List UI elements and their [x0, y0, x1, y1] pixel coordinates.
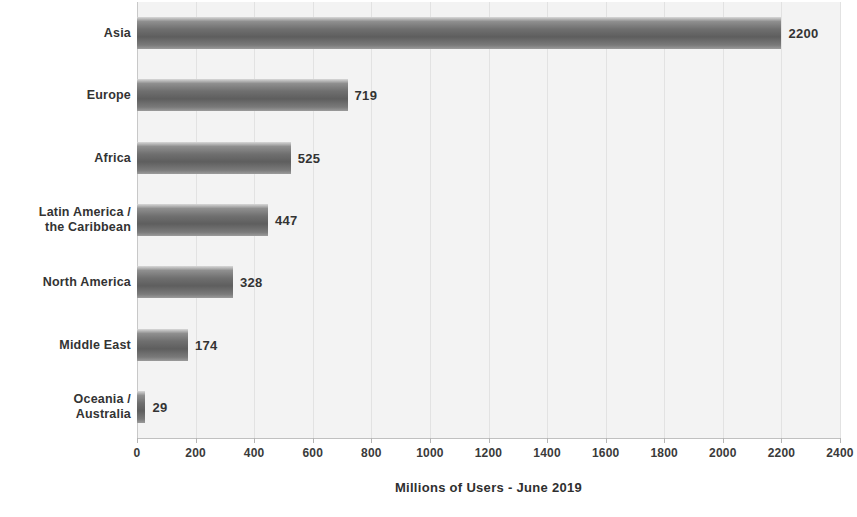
- x-axis-tick: [840, 438, 841, 443]
- x-axis-tick-label: 1000: [416, 446, 444, 460]
- x-axis-tick: [196, 438, 197, 443]
- x-axis-tick-label: 1400: [533, 446, 561, 460]
- x-axis-tick: [137, 438, 138, 443]
- category-label: Asia: [0, 26, 131, 41]
- x-axis-tick: [547, 438, 548, 443]
- x-axis-tick-label: 600: [302, 446, 323, 460]
- gridline: [840, 2, 841, 438]
- category-axis-labels: AsiaEuropeAfricaLatin America /the Carib…: [0, 2, 131, 438]
- bar[interactable]: [137, 329, 188, 361]
- x-axis-tick-label: 2000: [709, 446, 737, 460]
- bar-value-label: 174: [195, 337, 218, 352]
- x-axis-tick: [664, 438, 665, 443]
- x-axis-tick-label: 400: [244, 446, 265, 460]
- category-label: Europe: [0, 88, 131, 103]
- bar-value-label: 447: [275, 213, 298, 228]
- bar-row: 174: [137, 329, 840, 361]
- bar-row: 447: [137, 204, 840, 236]
- x-axis-tick-label: 2400: [826, 446, 854, 460]
- bar[interactable]: [137, 17, 781, 49]
- x-axis-tick: [313, 438, 314, 443]
- bar-value-label: 29: [152, 399, 167, 414]
- x-axis-tick-label: 0: [134, 446, 141, 460]
- bar-row: 2200: [137, 17, 840, 49]
- category-label: Middle East: [0, 337, 131, 352]
- category-label: Oceania /Australia: [0, 392, 131, 422]
- bar-chart: 220071952544732817429 AsiaEuropeAfricaLa…: [0, 0, 857, 517]
- category-label: Latin America /the Caribbean: [0, 205, 131, 235]
- x-axis-tick: [371, 438, 372, 443]
- x-axis-tick-label: 2200: [768, 446, 796, 460]
- x-axis-tick: [489, 438, 490, 443]
- bar-value-label: 525: [298, 150, 321, 165]
- bar-row: 328: [137, 266, 840, 298]
- x-axis-tick-label: 1200: [475, 446, 503, 460]
- x-axis-tick-label: 200: [185, 446, 206, 460]
- bar[interactable]: [137, 204, 268, 236]
- bar-series: 220071952544732817429: [137, 2, 840, 438]
- x-axis-tick-label: 1600: [592, 446, 620, 460]
- x-axis-tick: [254, 438, 255, 443]
- x-axis-tick: [781, 438, 782, 443]
- bar[interactable]: [137, 266, 233, 298]
- x-axis-title: Millions of Users - June 2019: [137, 480, 840, 495]
- bar-row: 29: [137, 391, 840, 423]
- category-label: North America: [0, 275, 131, 290]
- bar-row: 719: [137, 79, 840, 111]
- bar[interactable]: [137, 391, 145, 423]
- bar[interactable]: [137, 142, 291, 174]
- bar-value-label: 2200: [788, 26, 818, 41]
- x-axis-tick: [723, 438, 724, 443]
- bar-value-label: 328: [240, 275, 263, 290]
- bar-row: 525: [137, 142, 840, 174]
- x-axis-tick: [430, 438, 431, 443]
- plot-area: 220071952544732817429: [137, 2, 840, 438]
- category-label: Africa: [0, 150, 131, 165]
- x-axis-tick-label: 800: [361, 446, 382, 460]
- x-axis-tick: [606, 438, 607, 443]
- x-axis-tick-label: 1800: [651, 446, 679, 460]
- bar[interactable]: [137, 79, 348, 111]
- bar-value-label: 719: [355, 88, 378, 103]
